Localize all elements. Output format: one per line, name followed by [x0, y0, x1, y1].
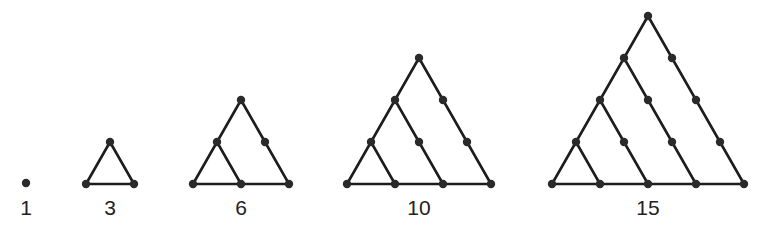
dot	[620, 54, 628, 62]
edge-line	[624, 58, 696, 184]
dot	[261, 138, 269, 146]
dot	[439, 180, 447, 188]
figure-6: 6	[189, 96, 293, 219]
figure-label: 3	[104, 196, 116, 219]
dots	[548, 12, 748, 188]
figure-label: 10	[407, 196, 430, 219]
edge-line	[110, 142, 134, 184]
dots	[189, 96, 293, 188]
dot	[668, 138, 676, 146]
figure-label: 1	[20, 196, 32, 219]
dot	[391, 180, 399, 188]
dot	[237, 96, 245, 104]
dot	[596, 96, 604, 104]
dot	[237, 180, 245, 188]
figure-15: 15	[548, 12, 748, 219]
dot	[716, 138, 724, 146]
edge-line	[576, 142, 600, 184]
dot	[644, 12, 652, 20]
figure-3: 3	[82, 138, 138, 219]
dot	[343, 180, 351, 188]
dot	[668, 54, 676, 62]
edge-line	[419, 58, 491, 184]
dot	[740, 180, 748, 188]
dots	[22, 179, 30, 187]
dot	[130, 180, 138, 188]
triangular-numbers-diagram: 1 3 6 10 15	[0, 0, 769, 229]
dot	[22, 179, 30, 187]
dot	[620, 138, 628, 146]
dot	[367, 138, 375, 146]
edge-line	[217, 142, 241, 184]
dot	[285, 180, 293, 188]
dot	[415, 138, 423, 146]
dot	[572, 138, 580, 146]
dot	[596, 180, 604, 188]
dot	[439, 96, 447, 104]
dot	[106, 138, 114, 146]
dot	[213, 138, 221, 146]
dot	[391, 96, 399, 104]
dot	[82, 180, 90, 188]
dot	[189, 180, 197, 188]
figure-10: 10	[343, 54, 495, 219]
dot	[644, 96, 652, 104]
dot	[463, 138, 471, 146]
edges	[86, 142, 134, 184]
figure-label: 15	[636, 196, 659, 219]
dot	[548, 180, 556, 188]
edges	[347, 58, 491, 184]
edge-line	[86, 142, 110, 184]
dot	[692, 180, 700, 188]
edge-line	[371, 142, 395, 184]
dot	[415, 54, 423, 62]
dot	[692, 96, 700, 104]
dots	[343, 54, 495, 188]
dot	[487, 180, 495, 188]
figure-1: 1	[20, 179, 32, 219]
figure-label: 6	[235, 196, 247, 219]
dot	[644, 180, 652, 188]
dots	[82, 138, 138, 188]
edges	[193, 100, 289, 184]
